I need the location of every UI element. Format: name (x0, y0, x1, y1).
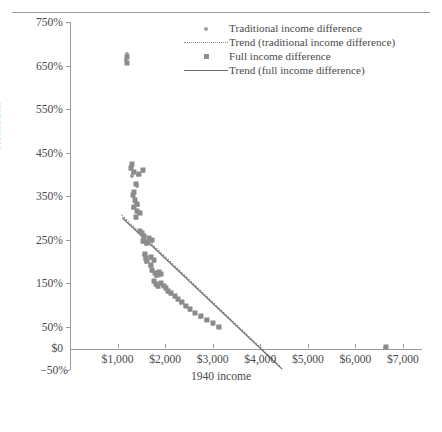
data-point (211, 321, 216, 326)
data-point (134, 181, 139, 186)
data-point (193, 310, 198, 315)
data-point (150, 238, 155, 243)
x-axis-title: 1940 income (0, 370, 442, 383)
x-axis-tick (260, 344, 261, 348)
data-point (204, 317, 209, 322)
chart-canvas: Traditional income differenceTrend (trad… (0, 0, 442, 432)
data-point (124, 54, 129, 59)
y-axis-tick (66, 66, 70, 67)
data-point (158, 272, 163, 277)
y-axis-tick-label: 550% (36, 103, 63, 116)
x-axis-tick-label: $7,000 (387, 353, 419, 366)
y-axis-tick-label: 650% (36, 59, 63, 72)
x-axis-tick-label: $6,000 (339, 353, 371, 366)
data-point (216, 324, 221, 329)
top-divider-rule (12, 12, 430, 13)
data-point (141, 167, 146, 172)
x-axis-tick-label: $1,000 (102, 353, 134, 366)
y-axis-tick-label: 450% (36, 146, 63, 159)
y-axis-tick-label: 150% (36, 277, 63, 290)
y-axis-tick (66, 240, 70, 241)
data-point (144, 240, 149, 245)
data-point (136, 172, 141, 177)
trend-line-overlay (70, 22, 422, 370)
x-axis-tick-label: $2,000 (149, 353, 181, 366)
x-axis-tick-label: $3,000 (197, 353, 229, 366)
y-axis-zero-label: $0 (51, 342, 63, 355)
x-axis-tick (403, 344, 404, 348)
y-axis-tick-label: 350% (36, 190, 63, 203)
x-axis-tick (165, 344, 166, 348)
x-axis-tick (118, 344, 119, 348)
y-axis-tick (66, 22, 70, 23)
x-axis-tick (213, 344, 214, 348)
y-axis-tick-label: 250% (36, 233, 63, 246)
data-point (124, 61, 129, 66)
y-axis-tick (66, 327, 70, 328)
data-point (133, 214, 138, 219)
data-point (130, 174, 134, 178)
y-axis-tick (66, 196, 70, 197)
x-axis-tick (355, 344, 356, 348)
y-axis-title: Reduction (0, 102, 3, 150)
y-axis-tick-label: 50% (42, 320, 63, 333)
plot-area: 750%650%550%450%350%250%150%50%$0−50%$1,… (70, 22, 422, 370)
data-point (383, 345, 388, 350)
data-point (198, 314, 203, 319)
x-axis-tick (308, 344, 309, 348)
y-axis-tick-label: 750% (36, 16, 63, 29)
y-axis-tick (66, 153, 70, 154)
y-axis-tick (66, 283, 70, 284)
x-axis-tick-label: $4,000 (244, 353, 276, 366)
y-axis-tick (66, 109, 70, 110)
x-axis-tick-label: $5,000 (292, 353, 324, 366)
